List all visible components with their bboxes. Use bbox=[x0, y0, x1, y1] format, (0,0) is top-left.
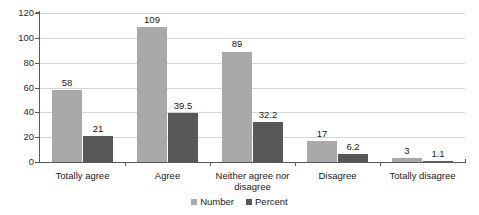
bar-value-label: 21 bbox=[77, 124, 119, 134]
y-axis-tick bbox=[35, 162, 40, 163]
x-axis-tick bbox=[295, 162, 296, 166]
x-axis-right-cap bbox=[465, 159, 466, 163]
gridline bbox=[40, 13, 465, 14]
x-axis-category-label: Neither agree nor disagree bbox=[210, 170, 295, 192]
x-axis-category-label: Totally agree bbox=[40, 170, 125, 181]
bar-number-2 bbox=[222, 52, 252, 163]
bar-percent-2 bbox=[253, 122, 283, 162]
bar-percent-1 bbox=[168, 113, 198, 162]
bar-value-label: 58 bbox=[46, 78, 88, 88]
bar-value-label: 6.2 bbox=[332, 142, 374, 152]
y-axis-tick bbox=[35, 63, 40, 64]
y-axis-label-60: 60 bbox=[0, 83, 34, 93]
y-axis-label-100: 100 bbox=[0, 33, 34, 43]
x-axis-tick bbox=[210, 162, 211, 166]
bar-percent-3 bbox=[338, 154, 368, 162]
chart-legend: Number Percent bbox=[0, 197, 479, 207]
bar-value-label: 89 bbox=[216, 39, 258, 49]
x-axis-category-label: Agree bbox=[125, 170, 210, 181]
legend-swatch-icon bbox=[191, 199, 197, 205]
bar-number-4 bbox=[392, 158, 422, 162]
y-axis-tick bbox=[35, 38, 40, 39]
bar-chart: 120 100 80 60 40 20 0 582110939.58932.21… bbox=[0, 0, 479, 215]
x-axis-line bbox=[39, 162, 466, 163]
x-axis-tick bbox=[380, 162, 381, 166]
bar-number-1 bbox=[137, 27, 167, 162]
gridline bbox=[40, 88, 465, 89]
bar-value-label: 1.1 bbox=[417, 149, 459, 159]
y-axis-tick bbox=[35, 137, 40, 138]
legend-item-percent: Percent bbox=[246, 197, 288, 207]
bar-percent-4 bbox=[423, 161, 453, 162]
y-axis-label-0: 0 bbox=[0, 157, 34, 167]
legend-swatch-icon bbox=[246, 199, 252, 205]
bar-value-label: 39.5 bbox=[162, 101, 204, 111]
x-axis-category-label: Disagree bbox=[295, 170, 380, 181]
x-axis-category-label: Totally disagree bbox=[380, 170, 465, 181]
y-axis-label-120: 120 bbox=[0, 8, 34, 18]
y-axis-tick bbox=[35, 88, 40, 89]
y-axis-tick bbox=[35, 112, 40, 113]
y-axis-label-80: 80 bbox=[0, 58, 34, 68]
bar-value-label: 32.2 bbox=[247, 110, 289, 120]
y-axis-tick bbox=[35, 13, 40, 14]
legend-item-number: Number bbox=[191, 197, 234, 207]
y-axis-label-20: 20 bbox=[0, 132, 34, 142]
legend-label-percent: Percent bbox=[255, 197, 288, 207]
x-axis-tick bbox=[125, 162, 126, 166]
legend-label-number: Number bbox=[200, 197, 234, 207]
bar-value-label: 109 bbox=[131, 15, 173, 25]
bar-percent-0 bbox=[83, 136, 113, 162]
bar-value-label: 17 bbox=[301, 129, 343, 139]
gridline bbox=[40, 63, 465, 64]
y-axis-label-40: 40 bbox=[0, 107, 34, 117]
